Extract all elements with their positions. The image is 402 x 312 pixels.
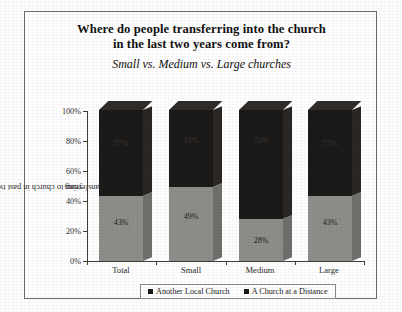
bar-total-side-dark bbox=[143, 106, 152, 196]
x-label-total: Total bbox=[86, 265, 156, 275]
bar-total-face: 57% 43% bbox=[99, 110, 143, 261]
chart-subtitle: Small vs. Medium vs. Large churches bbox=[25, 57, 378, 71]
y-tick-100 bbox=[83, 111, 87, 112]
y-axis-line bbox=[87, 111, 88, 262]
legend-item-church-at-a-distance: A Church at a Distance bbox=[244, 287, 328, 296]
y-axis-label: % transferring to church in past two yea… bbox=[56, 111, 70, 262]
bar-total-label-distance: 57% bbox=[99, 139, 143, 148]
plot-area: 100% 80% 60% 40% 20% 0% 57% bbox=[87, 111, 365, 262]
legend-label-church-at-a-distance: A Church at a Distance bbox=[252, 287, 328, 296]
bar-medium-face: 72% 28% bbox=[239, 110, 283, 261]
y-tick-label-80: 80% bbox=[66, 137, 81, 146]
bar-small-label-distance: 51% bbox=[169, 136, 213, 145]
chart-title-line-1: Where do people transferring into the ch… bbox=[25, 22, 378, 37]
y-tick-20 bbox=[83, 231, 87, 232]
title-block: Where do people transferring into the ch… bbox=[25, 22, 378, 71]
bar-medium-side-dark bbox=[283, 106, 292, 218]
y-tick-label-100: 100% bbox=[62, 107, 81, 116]
bar-small-face: 51% 49% bbox=[169, 110, 213, 261]
bar-small-side-light bbox=[213, 183, 222, 261]
y-tick-label-40: 40% bbox=[66, 197, 81, 206]
y-tick-60 bbox=[83, 171, 87, 172]
legend-label-another-local-church: Another Local Church bbox=[156, 287, 230, 296]
bar-total: 57% 43% bbox=[99, 110, 143, 261]
chart-title-line-2: in the last two years come from? bbox=[25, 37, 378, 52]
x-label-medium: Medium bbox=[225, 265, 295, 275]
bar-medium-segment-local: 28% bbox=[239, 219, 283, 261]
y-tick-label-0: 0% bbox=[70, 257, 81, 266]
y-tick-label-60: 60% bbox=[66, 167, 81, 176]
bar-large-side-dark bbox=[352, 106, 361, 196]
bar-small: 51% 49% bbox=[169, 110, 213, 261]
legend-swatch-icon-church-at-a-distance bbox=[244, 289, 249, 294]
y-tick-80 bbox=[83, 141, 87, 142]
bar-small-label-local: 49% bbox=[169, 212, 213, 221]
bar-large-side-light bbox=[352, 192, 361, 261]
bar-large-face: 57% 43% bbox=[308, 110, 352, 261]
bar-medium-label-distance: 72% bbox=[239, 136, 283, 145]
bar-small-segment-local: 49% bbox=[169, 187, 213, 261]
bar-total-side-light bbox=[143, 192, 152, 261]
bar-large: 57% 43% bbox=[308, 110, 352, 261]
bar-medium-side-light bbox=[283, 215, 292, 261]
bar-large-segment-distance: 57% bbox=[308, 110, 352, 196]
figure-border: Where do people transferring into the ch… bbox=[24, 11, 377, 299]
x-label-small: Small bbox=[156, 265, 226, 275]
bar-large-segment-local: 43% bbox=[308, 196, 352, 261]
bar-medium-label-local: 28% bbox=[239, 236, 283, 245]
y-tick-label-20: 20% bbox=[66, 227, 81, 236]
chart-figure: Where do people transferring into the ch… bbox=[0, 0, 402, 312]
bar-total-segment-distance: 57% bbox=[99, 110, 143, 196]
x-label-large: Large bbox=[294, 265, 364, 275]
legend-swatch-icon-another-local-church bbox=[148, 289, 153, 294]
bar-small-side-dark bbox=[213, 106, 222, 187]
bar-small-segment-distance: 51% bbox=[169, 110, 213, 187]
bar-large-label-local: 43% bbox=[308, 218, 352, 227]
y-tick-40 bbox=[83, 201, 87, 202]
bar-large-label-distance: 57% bbox=[308, 139, 352, 148]
bar-medium-segment-distance: 72% bbox=[239, 110, 283, 219]
legend-item-another-local-church: Another Local Church bbox=[148, 287, 230, 296]
bar-medium: 72% 28% bbox=[239, 110, 283, 261]
x-tick-4 bbox=[364, 261, 365, 265]
bar-total-segment-local: 43% bbox=[99, 196, 143, 261]
bar-total-label-local: 43% bbox=[99, 218, 143, 227]
chart-legend: Another Local Church A Church at a Dista… bbox=[140, 284, 336, 299]
